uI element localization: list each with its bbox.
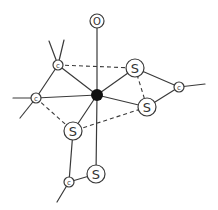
sulfur-label: S (92, 167, 100, 182)
sulfur-atom-s1: S (126, 59, 144, 77)
metal-atom-m (91, 89, 103, 101)
carbon-atom-c1: c (53, 60, 63, 70)
carbon-label: c (67, 179, 71, 187)
carbon-label: c (56, 62, 60, 70)
sulfur-label: S (131, 61, 139, 76)
dashed-bond-s2-s3 (73, 107, 147, 131)
atoms-layer: OccScSSSc (31, 14, 184, 187)
carbon-atom-c4: c (64, 177, 74, 187)
oxygen-label: O (93, 16, 101, 27)
carbon-atom-c2: c (31, 93, 41, 103)
bond-c1-c2 (36, 65, 58, 98)
metal-center-icon (91, 89, 103, 101)
sulfur-atom-s4: S (87, 165, 105, 183)
substituent-stubs-layer (13, 40, 205, 202)
carbon-atom-c3: c (174, 82, 184, 92)
oxygen-atom-o: O (90, 14, 104, 28)
bond-m-s4 (96, 95, 97, 174)
sulfur-atom-s3: S (64, 122, 82, 140)
sulfur-label: S (69, 124, 77, 139)
carbon-label: c (177, 84, 181, 92)
sulfur-label: S (143, 100, 151, 115)
bond-m-c2 (36, 95, 97, 98)
sulfur-atom-s2: S (138, 98, 156, 116)
bond-m-c1 (58, 65, 97, 95)
carbon-label: c (34, 95, 38, 103)
coordination-complex-diagram: OccScSSSc (0, 0, 218, 210)
bonds-layer (36, 21, 179, 182)
